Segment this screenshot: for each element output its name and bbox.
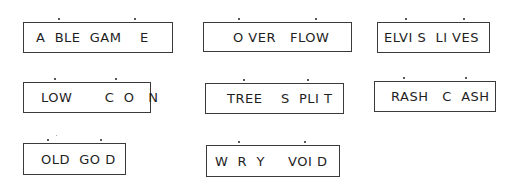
marker-dot-icon bbox=[304, 141, 306, 143]
puzzle-card-6: RASH C ASH bbox=[374, 81, 496, 112]
puzzle-card-1: A BLE GAM E bbox=[23, 22, 173, 53]
puzzle-text-3: ELVI S LI VES bbox=[378, 23, 489, 52]
puzzle-text-4: LOW C O N bbox=[24, 83, 150, 112]
marker-dot-icon bbox=[315, 18, 317, 20]
marker-dot-icon bbox=[243, 79, 245, 81]
puzzle-card-7: OLD GO D bbox=[23, 143, 126, 175]
puzzle-card-2: O VER FLOW bbox=[203, 22, 352, 52]
marker-dot-icon bbox=[115, 78, 117, 80]
marker-dot-icon bbox=[463, 18, 465, 20]
marker-dot-icon bbox=[134, 18, 136, 20]
marker-dot-icon bbox=[307, 79, 309, 81]
puzzle-text-7: OLD GO D bbox=[24, 144, 125, 174]
puzzle-card-4: LOW C O N bbox=[23, 82, 151, 113]
marker-dot-icon bbox=[465, 77, 467, 79]
marker-dot-icon bbox=[100, 139, 102, 141]
puzzle-text-1: A BLE GAM E bbox=[24, 23, 172, 52]
marker-dot-icon bbox=[238, 141, 240, 143]
puzzle-text-2: O VER FLOW bbox=[204, 23, 351, 51]
puzzle-text-5: TREE S PLI T bbox=[206, 84, 343, 113]
marker-dot-icon bbox=[405, 18, 407, 20]
stray-mark bbox=[56, 135, 57, 136]
puzzle-text-6: RASH C ASH bbox=[375, 82, 495, 111]
marker-dot-icon bbox=[47, 139, 49, 141]
marker-dot-icon bbox=[238, 18, 240, 20]
marker-dot-icon bbox=[58, 18, 60, 20]
puzzle-text-8: W R Y VOI D bbox=[207, 146, 339, 176]
puzzle-card-8: W R Y VOI D bbox=[206, 145, 340, 177]
marker-dot-icon bbox=[403, 77, 405, 79]
marker-dot-icon bbox=[54, 78, 56, 80]
puzzle-card-3: ELVI S LI VES bbox=[377, 22, 490, 53]
puzzle-card-5: TREE S PLI T bbox=[205, 83, 344, 114]
